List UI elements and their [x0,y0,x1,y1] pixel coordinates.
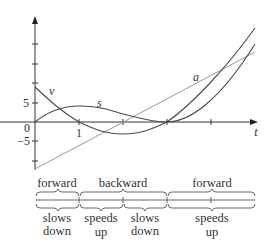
axes [0,16,258,170]
direction-label-backward: backward [99,176,148,190]
tick-label-origin: 0 [24,121,30,135]
tick-label-yneg5: −5 [17,134,30,148]
speed-label-3-line1: slows [131,211,160,225]
speed-label-2-line1: speeds [84,211,117,225]
speed-label-1-line2: down [43,224,72,238]
speed-label-2-line2: up [95,225,108,239]
direction-label-forward-2: forward [192,176,232,190]
divider-line [36,197,255,203]
motion-diagram: 0 1 5 −5 t v s a forward backward forwar… [0,0,276,246]
speed-label-4-line1: speeds [195,211,228,225]
direction-braces [36,189,255,196]
velocity-label: v [49,84,55,98]
y-axis-arrow-icon [32,16,38,24]
speed-label-3-line2: down [131,224,160,238]
acceleration-label: a [193,70,199,84]
speed-label-1-line1: slows [43,211,72,225]
direction-label-forward-1: forward [37,176,77,190]
tick-label-y5: 5 [23,96,29,110]
speed-label-4-line2: up [206,225,219,239]
position-label: s [97,96,102,110]
tick-label-t1: 1 [76,126,82,140]
speed-braces [36,204,255,211]
velocity-curve [35,28,255,134]
t-axis-label: t [254,125,258,139]
